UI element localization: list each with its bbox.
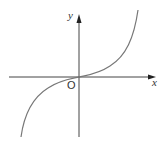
graph-svg: y x O [0, 0, 163, 143]
y-axis-label: y [67, 9, 73, 21]
x-axis-label: x [151, 76, 157, 88]
origin-label: O [67, 79, 76, 91]
y-axis-arrowhead-icon [77, 14, 82, 23]
function-graph-diagram: y x O [0, 0, 163, 143]
